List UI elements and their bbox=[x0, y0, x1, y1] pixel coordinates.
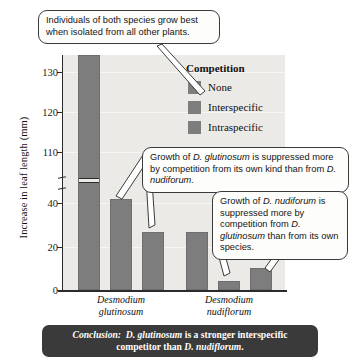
callout-low-species-1: D. nudiforum bbox=[263, 196, 316, 206]
callout-mid-text-c: . bbox=[191, 175, 194, 185]
y-tick-label-130: 130 bbox=[18, 67, 58, 78]
legend-label-interspecific: Interspecific bbox=[208, 101, 263, 113]
legend-swatch-intraspecific bbox=[188, 121, 201, 134]
callout-mid-text-a: Growth of bbox=[150, 152, 193, 162]
x-axis-line bbox=[58, 290, 287, 292]
x-group-label-nudiflorum: Desmodium nudiflorum bbox=[174, 294, 284, 318]
callout-nudiflorum-suppression: Growth of D. nudiforum is suppressed mor… bbox=[212, 191, 348, 260]
bar-glutinosum-interspecific bbox=[110, 199, 132, 290]
legend-swatch-none bbox=[188, 81, 201, 94]
x-group-label-line1: Desmodium bbox=[174, 294, 284, 306]
axis-break-bar-mark bbox=[79, 178, 99, 183]
conclusion-banner: Conclusion: D. glutinosum is a stronger … bbox=[42, 325, 318, 357]
bar-chart-figure: 130 120 110 40 20 0 Increase in leaf len… bbox=[0, 0, 357, 364]
x-group-label-glutinosum: Desmodium glutinosum bbox=[66, 294, 176, 318]
legend-label-intraspecific: Intraspecific bbox=[208, 121, 263, 133]
bar-glutinosum-intraspecific bbox=[142, 232, 164, 290]
y-axis-line bbox=[62, 55, 63, 291]
conclusion-lead: Conclusion: bbox=[72, 329, 121, 340]
legend-title: Competition bbox=[186, 62, 263, 74]
legend-label-none: None bbox=[208, 81, 232, 93]
y-tick-label-0: 0 bbox=[18, 285, 58, 296]
x-group-label-line2: nudiflorum bbox=[174, 306, 284, 318]
legend: Competition None Interspecific Intraspec… bbox=[188, 62, 263, 138]
legend-swatch-interspecific bbox=[188, 101, 201, 114]
legend-item-intraspecific: Intraspecific bbox=[188, 118, 263, 136]
bar-nudiflorum-interspecific bbox=[218, 281, 240, 290]
bar-glutinosum-none bbox=[78, 55, 100, 290]
legend-item-none: None bbox=[188, 78, 263, 96]
bar-nudiflorum-intraspecific bbox=[250, 268, 272, 290]
conclusion-species-b: D. nudiflorum bbox=[184, 341, 241, 352]
conclusion-species-a: D. glutinosum bbox=[126, 329, 183, 340]
legend-item-interspecific: Interspecific bbox=[188, 98, 263, 116]
x-group-label-line1: Desmodium bbox=[66, 294, 176, 306]
conclusion-end: . bbox=[241, 341, 243, 352]
callout-isolated-growth: Individuals of both species grow best wh… bbox=[38, 10, 220, 44]
x-group-label-line2: glutinosum bbox=[66, 306, 176, 318]
bar-nudiflorum-none bbox=[186, 232, 208, 290]
y-axis-title: Increase in leaf length (mm) bbox=[18, 78, 29, 278]
callout-low-text-a: Growth of bbox=[220, 196, 263, 206]
callout-glutinosum-suppression: Growth of D. glutinosum is suppressed mo… bbox=[142, 147, 349, 193]
callout-mid-species-1: D. glutinosum bbox=[193, 152, 250, 162]
